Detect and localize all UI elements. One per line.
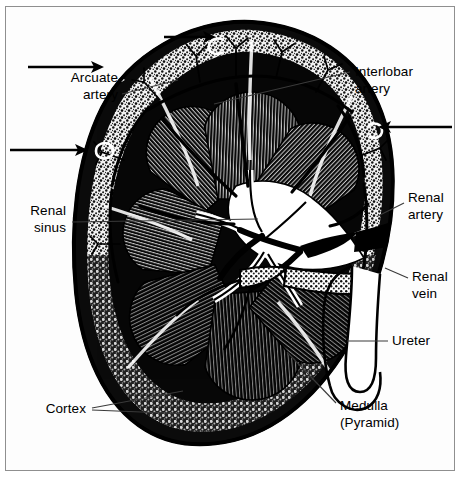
label-interlobar-artery-line2: artery [355, 81, 390, 96]
leader-renal-vein [385, 268, 408, 278]
label-renal-sinus-line1: Renal [30, 203, 66, 218]
label-interlobar-artery-line1: Interlobar [355, 64, 413, 79]
kidney-illustration: Arcuate artery Interlobar artery Renal s… [0, 0, 463, 490]
label-arcuate-artery-line1: Arcuate [71, 70, 118, 85]
label-renal-vein-line1: Renal [412, 269, 448, 284]
arrow-mid-left [10, 144, 88, 156]
label-medulla-line2: (Pyramid) [340, 415, 399, 430]
kidney-diagram-figure: Arcuate artery Interlobar artery Renal s… [0, 0, 463, 490]
arrow-mid-right [378, 121, 452, 133]
label-medulla-line1: Medulla [340, 398, 388, 413]
label-renal-vein-line2: vein [412, 286, 437, 301]
label-cortex: Cortex [46, 401, 87, 416]
kidney-body [74, 22, 448, 444]
label-ureter: Ureter [392, 333, 431, 348]
label-arcuate-artery-line2: artery [83, 87, 118, 102]
label-renal-artery-line2: artery [408, 207, 443, 222]
label-renal-artery-line1: Renal [408, 190, 444, 205]
label-renal-sinus-line2: sinus [34, 220, 66, 235]
